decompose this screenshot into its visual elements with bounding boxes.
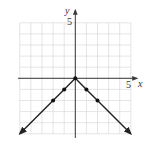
data-point <box>62 87 66 91</box>
y-tick-label: 5 <box>67 16 72 27</box>
y-axis-label: y <box>64 5 70 16</box>
x-axis-label: x <box>137 78 143 89</box>
data-point <box>51 99 55 103</box>
data-point <box>96 99 100 103</box>
x-tick-label: 5 <box>126 79 131 90</box>
data-point <box>84 87 88 91</box>
data-point <box>73 76 77 80</box>
graph-plot: y 5 5 x <box>0 0 152 148</box>
